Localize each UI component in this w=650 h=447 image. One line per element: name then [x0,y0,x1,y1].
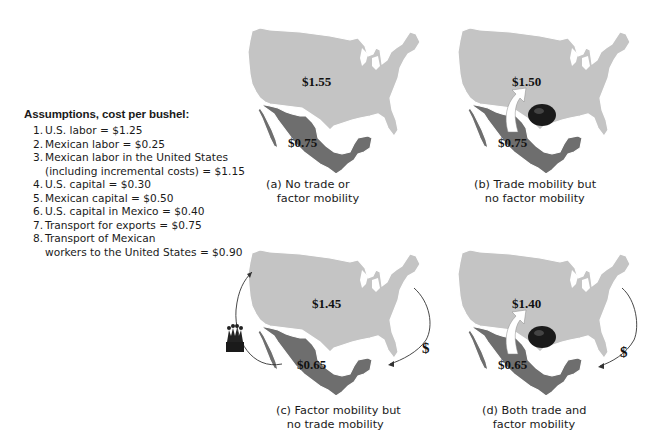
assumptions-box: Assumptions, cost per bushel: 1.U.S. lab… [24,108,234,259]
assumptions-title: Assumptions, cost per bushel: [24,108,234,120]
mexican-workers-icon [226,324,244,352]
item-text: Transport for exports = $0.75 [45,219,202,233]
assumption-item: 4.U.S. capital = $0.30 [24,178,234,192]
panel-caption: (b) Trade mobility but no factor mobilit… [474,178,596,206]
item-text: U.S. labor = $1.25 [45,124,143,138]
item-number [33,246,45,260]
assumption-item: 3.Mexican labor in the United States [24,151,234,165]
item-number: 3. [33,151,45,165]
capital-dollar-icon: $ [620,344,628,361]
item-number: 4. [33,178,45,192]
us-price-label: $1.55 [302,74,331,90]
panel-caption: (c) Factor mobility but no trade mobilit… [276,404,401,432]
capital-dollar-icon: $ [422,340,430,357]
assumption-item: 2.Mexican labor = $0.25 [24,138,234,152]
us-price-label: $1.50 [512,74,541,90]
assumption-item: 1.U.S. labor = $1.25 [24,124,234,138]
caption-line-1: (d) Both trade and [482,404,586,417]
mexico-price-label: $0.75 [498,135,527,151]
item-text: Mexican labor = $0.25 [45,138,165,152]
mexico-price-label: $0.65 [498,357,527,373]
assumption-item: 6.U.S. capital in Mexico = $0.40 [24,205,234,219]
caption-line-2: no trade mobility [287,418,384,431]
item-number: 2. [33,138,45,152]
item-number: 7. [33,219,45,233]
item-text: U.S. capital = $0.30 [45,178,151,192]
mexico-price-label: $0.65 [297,357,326,373]
map-us-mexico [440,230,650,430]
item-number: 5. [33,192,45,206]
assumption-item: 8.Transport of Mexican [24,232,234,246]
caption-line-2: no factor mobility [485,192,585,205]
tomato-product-icon [528,104,556,126]
item-number: 8. [33,232,45,246]
panel-caption: (a) No trade or factor mobility [266,178,359,206]
item-text: U.S. capital in Mexico = $0.40 [45,205,204,219]
panel-caption: (d) Both trade and factor mobility [482,404,586,432]
map-us-mexico [222,230,432,430]
item-number: 6. [33,205,45,219]
assumption-item: 5.Mexican capital = $0.50 [24,192,234,206]
item-text: (including incremental costs) = $1.15 [45,165,245,179]
caption-line-2: factor mobility [493,418,575,431]
caption-line-1: (b) Trade mobility but [474,178,596,191]
item-text: workers to the United States = $0.90 [45,246,242,260]
panel-d-trade-and-factor-mobility: $1.40 $0.65 $ (d) Both trade and factor … [440,230,650,447]
assumption-item-continued: workers to the United States = $0.90 [24,246,234,260]
us-price-label: $1.40 [512,296,541,312]
assumptions-list: 1.U.S. labor = $1.25 2.Mexican labor = $… [24,124,234,259]
item-text: Transport of Mexican [45,232,155,246]
panel-a-no-trade-no-factor-mobility: $1.55 $0.75 (a) No trade or factor mobil… [230,8,440,228]
assumption-item-continued: (including incremental costs) = $1.15 [24,165,234,179]
tomato-product-icon [528,326,556,348]
item-number: 1. [33,124,45,138]
caption-line-1: (a) No trade or [266,178,350,191]
assumption-item: 7.Transport for exports = $0.75 [24,219,234,233]
us-price-label: $1.45 [312,296,341,312]
caption-line-1: (c) Factor mobility but [276,404,401,417]
item-text: Mexican capital = $0.50 [45,192,174,206]
panel-c-factor-mobility: $1.45 $0.65 $ (c) Factor mobility but no… [222,230,432,447]
panel-b-trade-mobility: $1.50 $0.75 (b) Trade mobility but no fa… [440,8,650,228]
item-text: Mexican labor in the United States [45,151,228,165]
item-number [33,165,45,179]
caption-line-2: factor mobility [277,192,359,205]
mexico-price-label: $0.75 [288,135,317,151]
